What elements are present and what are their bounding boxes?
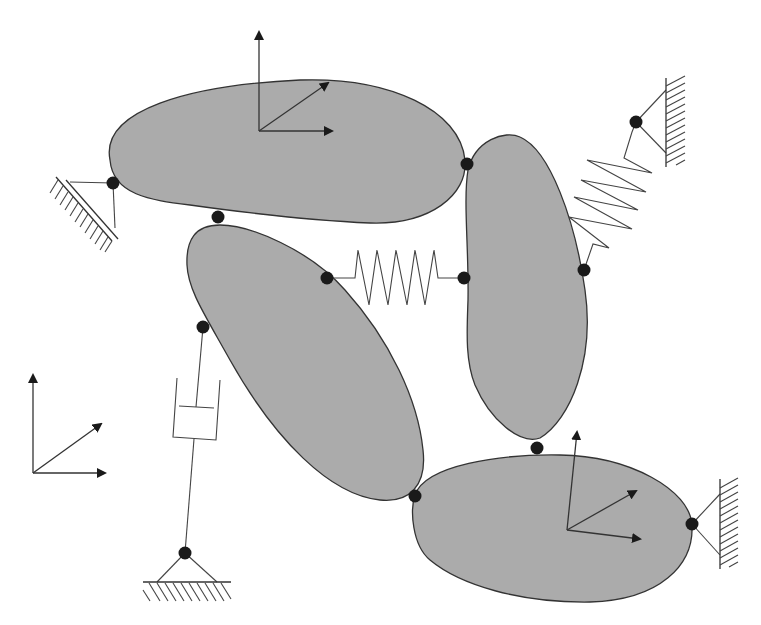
global-z-axis-arrow-icon	[33, 424, 101, 473]
j-ground-right-upper-joint-icon	[630, 116, 643, 129]
body-lower-right	[413, 455, 692, 602]
multibody-diagram	[0, 0, 761, 625]
damper-icon	[173, 327, 220, 553]
j-damper-ground-joint-icon	[179, 547, 192, 560]
j-spring-right-joint-icon	[458, 272, 471, 285]
j-body2-body4-joint-icon	[409, 490, 422, 503]
ground-left-inclined-icon	[50, 177, 118, 252]
j-body1-body3-joint-icon	[461, 158, 474, 171]
j-body3-body4-joint-icon	[531, 442, 544, 455]
j-damper-top-joint-icon	[197, 321, 210, 334]
ground-right-upper-wall-icon	[636, 76, 685, 167]
j-body1-body2-joint-icon	[212, 211, 225, 224]
spring-diagonal-icon	[569, 122, 652, 270]
body-vertical-right	[466, 135, 587, 439]
global-frame-axes	[33, 375, 105, 473]
j-ground-right-lower-joint-icon	[686, 518, 699, 531]
body-upper-horizontal	[109, 80, 465, 223]
j-spring2-body3-joint-icon	[578, 264, 591, 277]
ground-bottom-floor-icon	[143, 553, 231, 601]
ground-right-lower-wall-icon	[692, 478, 738, 569]
j-ground-left-joint-icon	[107, 177, 120, 190]
j-spring-left-joint-icon	[321, 272, 334, 285]
bodies	[109, 80, 692, 602]
body-diagonal-left	[187, 225, 424, 500]
